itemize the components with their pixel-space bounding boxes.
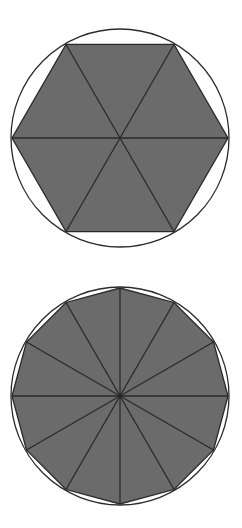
- dodecagon-inscribed-in-circle: [11, 287, 229, 505]
- hexagon-inscribed-in-circle: [11, 29, 229, 247]
- diagram-canvas: [0, 0, 242, 528]
